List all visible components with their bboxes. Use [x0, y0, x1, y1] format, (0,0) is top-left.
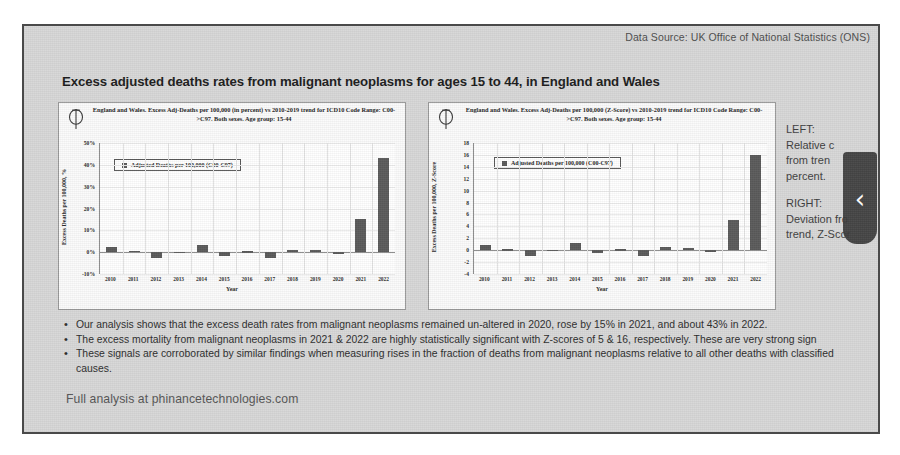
gridline: [474, 155, 767, 156]
gridline: [168, 143, 169, 274]
chart-right-plot-area: Adjusted Deaths per 100,000 (C00-C97): [473, 143, 767, 274]
gridline: [474, 167, 767, 168]
chart-right-title: England and Wales. Excess Adj-Deaths per…: [459, 106, 769, 123]
x-tick-label: 2011: [122, 276, 145, 282]
chart-left-xlabel: Year: [59, 286, 405, 292]
y-tick-label: 2: [443, 235, 469, 241]
x-tick-label: 2021: [349, 276, 372, 282]
gridline: [304, 143, 305, 274]
footer-link[interactable]: Full analysis at phinancetechnologies.co…: [66, 392, 298, 406]
y-tick-label: 40%: [69, 162, 95, 168]
data-source-label: Data Source: UK Office of National Stati…: [625, 31, 870, 43]
y-tick-label: 0%: [69, 249, 95, 255]
bar: [151, 252, 162, 258]
slide-stage: Data Source: UK Office of National Stati…: [0, 0, 900, 455]
bar: [378, 158, 389, 252]
legend-swatch-icon: [502, 161, 507, 166]
chart-right-xlabel: Year: [429, 286, 775, 292]
gridline: [474, 262, 767, 263]
gridline: [100, 143, 395, 144]
chevron-left-icon[interactable]: ‹: [848, 184, 872, 214]
bar: [355, 219, 366, 252]
gridline: [474, 274, 767, 275]
x-tick-label: 2020: [327, 276, 350, 282]
y-tick-label: -10%: [69, 271, 95, 277]
x-tick-label: 2019: [304, 276, 327, 282]
chart-left-xticks: 2010201120122013201420152016201720182019…: [99, 276, 395, 282]
y-tick-label: 6: [443, 211, 469, 217]
gridline: [145, 143, 146, 274]
x-tick-label: 2019: [676, 276, 699, 282]
x-tick-label: 2015: [213, 276, 236, 282]
gridline: [609, 143, 610, 274]
bar: [570, 243, 581, 250]
chart-right-ylabel-wrap: Excess Deaths per 100,000, Z-Score: [428, 139, 441, 274]
bar: [265, 252, 276, 257]
y-tick-label: 12: [443, 176, 469, 182]
gridline: [236, 143, 237, 274]
gridline: [474, 179, 767, 180]
gridline: [474, 238, 767, 239]
annotation-left-heading: LEFT:: [786, 122, 880, 138]
chart-left-plot-area: Adjusted Deaths per 100,000 (C00-C97): [99, 143, 395, 274]
x-tick-label: 2017: [258, 276, 281, 282]
gridline: [474, 226, 767, 227]
bar: [310, 250, 321, 252]
y-tick-label: 10: [443, 188, 469, 194]
bar: [287, 250, 298, 253]
gridline: [699, 143, 700, 274]
y-tick-label: 30%: [69, 184, 95, 190]
x-tick-label: 2014: [190, 276, 213, 282]
gridline: [282, 143, 283, 274]
y-tick-label: 0: [443, 247, 469, 253]
gridline: [474, 191, 767, 192]
bar: [525, 250, 536, 256]
gridline: [677, 143, 678, 274]
chart-right-header: England and Wales. Excess Adj-Deaths per…: [429, 103, 775, 139]
gridline: [654, 143, 655, 274]
y-tick-label: -2: [443, 259, 469, 265]
x-tick-label: 2010: [99, 276, 122, 282]
gridline: [191, 143, 192, 274]
gridline: [722, 143, 723, 274]
y-tick-label: 14: [443, 164, 469, 170]
gridline: [587, 143, 588, 274]
presentation-slide: Data Source: UK Office of National Stati…: [22, 24, 880, 434]
y-tick-label: 10%: [69, 227, 95, 233]
chart-panel-right: England and Wales. Excess Adj-Deaths per…: [428, 102, 776, 310]
bar: [592, 250, 603, 253]
y-tick-label: -4: [443, 271, 469, 277]
bar: [683, 248, 694, 250]
x-tick-label: 2015: [586, 276, 609, 282]
y-tick-label: 18: [443, 140, 469, 146]
gridline: [100, 209, 395, 210]
list-item: The excess mortality from malignant neop…: [64, 333, 872, 348]
bar: [660, 247, 671, 250]
bar: [705, 250, 716, 252]
gridline: [259, 143, 260, 274]
gridline: [632, 143, 633, 274]
x-tick-label: 2018: [281, 276, 304, 282]
y-tick-label: 16: [443, 152, 469, 158]
gridline: [100, 165, 395, 166]
gridline: [372, 143, 373, 274]
gridline: [519, 143, 520, 274]
bullet-list: Our analysis shows that the excess death…: [64, 318, 872, 376]
chart-panel-left: England and Wales. Excess Adj-Deaths per…: [58, 102, 406, 310]
chart-right-xticks: 2010201120122013201420152016201720182019…: [473, 276, 767, 282]
x-tick-label: 2013: [167, 276, 190, 282]
bar: [129, 251, 140, 253]
x-tick-label: 2014: [563, 276, 586, 282]
list-item: These signals are corroborated by simila…: [64, 347, 872, 376]
x-tick-label: 2017: [631, 276, 654, 282]
gridline: [100, 230, 395, 231]
chart-left-ylabel: Excess Deaths per 100,000, %: [61, 168, 67, 244]
chart-right-plot: Excess Deaths per 100,000, Z-Score 18161…: [429, 139, 775, 310]
bar: [106, 247, 117, 252]
x-tick-label: 2022: [744, 276, 767, 282]
bar: [728, 220, 739, 250]
x-tick-label: 2016: [236, 276, 259, 282]
gridline: [100, 274, 395, 275]
gridline: [474, 203, 767, 204]
x-tick-label: 2021: [722, 276, 745, 282]
